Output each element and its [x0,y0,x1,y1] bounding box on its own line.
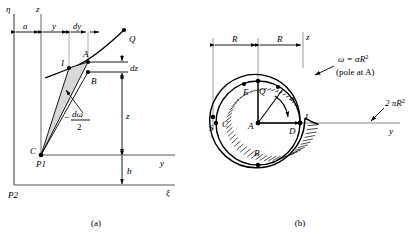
point-Q-label: Q [129,34,136,44]
point-A-label: A [82,49,89,59]
panel-b: z R R S y [209,32,405,228]
point-B-dot [86,70,90,74]
dim-z-label: z [125,111,130,121]
eta-axis-label: η [6,4,11,14]
point-D-label-b: D [288,126,296,136]
point-E-label-b: E [242,87,249,97]
angle-alpha-arc [275,96,288,117]
point-Q-label-b: Q [259,86,266,96]
z-axis-label: z [35,4,40,14]
xi-axis-label: ξ [166,188,170,198]
point-Q-dot [122,28,126,32]
figure-svg: η z y ξ a y dy dz z [0,0,418,239]
point-I-dot-b [298,121,303,126]
domega-denominator: 2 [77,122,82,132]
dim-a-label: a [23,21,28,31]
panel-b-z-label: z [305,32,310,42]
point-B-label: B [91,76,97,86]
point-A-dot [86,60,90,64]
point-C-label: C [30,146,37,156]
caption-a: (a) [91,218,101,228]
point-C-label-b: C [222,119,229,129]
point-B-dot-b [256,163,260,167]
point-B-label-b: B [254,148,260,158]
dim-R-right-label: R [276,34,283,44]
y-axis-label: y [159,158,164,168]
dim-y-label: y [51,21,56,31]
dim-dz-label: dz [130,63,139,73]
figure-root: η z y ξ a y dy dz z [0,0,418,239]
domega-minus-sign: − [64,112,69,122]
dim-R-left-label: R [231,34,238,44]
point-C-dot-b [214,121,218,125]
point-C-dot [39,153,44,158]
point-Q-dot-b [256,79,260,83]
omega-formula-line1: ω = αR2 [338,53,368,65]
point-A-label-b: A [247,121,254,131]
point-A-dot-b [256,121,261,126]
point-I-dot [67,66,71,70]
point-I-label: I [60,58,65,68]
spiral-top-dot [276,85,280,89]
dim-dy-label: dy [73,21,81,31]
leader-omega-formula [315,66,334,75]
panel-a: η z y ξ a y dy dz z [6,4,175,228]
dim-b-label: b [127,166,132,176]
point-P1-label: P1 [35,159,46,169]
panel-b-y-label: y [388,126,393,136]
leader-area-label [371,108,384,121]
angle-alpha-label: α [290,93,295,103]
omega-formula-line2: (pole at A) [336,67,375,77]
domega-numerator: dω [72,109,83,119]
caption-b: (b) [295,218,306,228]
area-label: 2 πR2 [385,97,405,109]
point-E-dot-b [242,82,246,86]
point-S-dot [211,115,216,120]
point-P2-label: P2 [7,190,18,200]
